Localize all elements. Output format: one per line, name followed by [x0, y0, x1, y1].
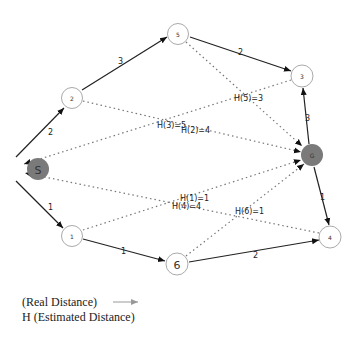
node-4: 4	[319, 226, 341, 248]
svg-text:6: 6	[174, 259, 181, 272]
edge-weight-g-3: 3	[305, 114, 310, 123]
heuristic-labels: H(3)=5 H(2)=4 H(5)=3 H(1)=1 H(4)=4 H(6)=…	[157, 94, 264, 216]
heuristic-label: H(4)=4	[172, 202, 201, 211]
edge-weight-1-6: 1	[121, 247, 126, 256]
node-2: 2	[62, 88, 83, 109]
node-5: 5	[168, 24, 189, 45]
svg-text:4: 4	[328, 234, 332, 241]
real-edges	[16, 37, 329, 262]
svg-text:3: 3	[300, 73, 304, 80]
svg-text:S: S	[35, 164, 42, 177]
heuristic-edges	[24, 42, 319, 256]
edge-weights: 2 3 2 3 1 1 1 2	[48, 48, 325, 260]
node-g: G	[301, 144, 323, 166]
legend-estimated-distance: H (Estimated Distance)	[22, 310, 135, 325]
svg-text:5: 5	[176, 31, 180, 38]
heuristic-label: H(6)=1	[235, 207, 264, 216]
edge-weight-s-1: 1	[48, 203, 53, 212]
edge-weight-g-4: 1	[320, 193, 325, 202]
svg-text:2: 2	[70, 95, 74, 102]
node-1: 1	[62, 226, 83, 247]
edge-weight-s-2: 2	[48, 128, 53, 137]
edge-weight-6-4: 2	[253, 251, 258, 260]
node-6: 6	[166, 253, 188, 275]
heuristic-label: H(5)=3	[234, 94, 263, 103]
legend-real-distance: (Real Distance)	[22, 295, 97, 310]
node-3: 3	[291, 65, 313, 87]
graph-diagram: 2 3 2 3 1 1 1 2 H(3)=5 H(2)=4 H(5)=3 H(1…	[0, 0, 358, 342]
edge-weight-2-5: 3	[118, 57, 123, 66]
heuristic-label: H(2)=4	[181, 126, 210, 135]
edge-weight-5-3: 2	[238, 48, 243, 57]
svg-text:G: G	[310, 152, 315, 159]
node-s: S	[27, 158, 49, 180]
svg-text:1: 1	[70, 233, 74, 240]
